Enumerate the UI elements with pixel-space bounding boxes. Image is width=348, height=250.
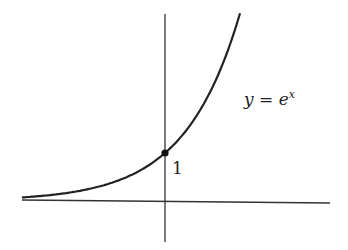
intercept-label: 1 xyxy=(172,158,183,178)
curve-label: y = ex xyxy=(244,88,295,109)
plot-canvas xyxy=(0,0,348,250)
exponential-graph: y = ex 1 xyxy=(0,0,348,250)
intercept-point xyxy=(161,149,168,156)
exp-curve xyxy=(22,13,240,197)
x-axis xyxy=(22,200,330,203)
